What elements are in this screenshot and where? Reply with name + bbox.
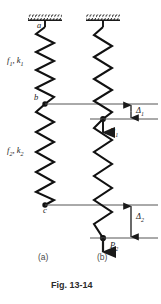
label-spring2-properties: f2, k2 (7, 146, 23, 157)
label-spring1-properties: f1, k1 (7, 56, 23, 67)
spring-1-coil-a (36, 27, 54, 104)
spring-2-coil-a (36, 104, 54, 205)
figure-13-14: f1, k1 f2, k2 a b c Δ1 Δ2 P1 P2 (a) (b) … (0, 0, 161, 304)
label-delta1: Δ1 (136, 106, 144, 117)
subfigure-label-a: (a) (38, 252, 48, 262)
figure-caption: Fig. 13-14 (51, 280, 93, 290)
label-node-c: c (43, 206, 47, 215)
label-force-P1: P1 (110, 127, 118, 138)
spring-system-diagram (0, 0, 161, 304)
fixed-support-a (28, 15, 62, 21)
subfigure-label-b: (b) (97, 252, 107, 262)
label-node-a: a (37, 21, 41, 30)
label-force-P2: P2 (110, 241, 118, 252)
column-a-undeformed (28, 15, 62, 208)
spring-1-coil-b-stretched (94, 27, 112, 119)
label-delta2: Δ2 (136, 212, 144, 223)
label-node-b: b (34, 93, 38, 102)
fixed-support-b (86, 15, 120, 21)
